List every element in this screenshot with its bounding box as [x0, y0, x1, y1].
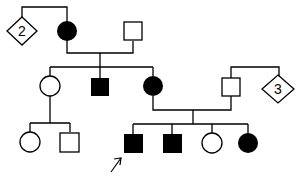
- proband-arrow-icon: [111, 158, 121, 172]
- individual-male-unaffected: [60, 133, 79, 152]
- sibship-line-g3-right: [133, 124, 248, 134]
- pedigree-diagram: 2 3: [0, 0, 300, 181]
- sibling-line-g1: [22, 7, 67, 22]
- sibship-line-g3-left: [30, 123, 70, 132]
- individual-female-unaffected: [40, 76, 60, 96]
- individual-male-unaffected: [222, 78, 240, 96]
- individual-male-unaffected: [124, 22, 142, 40]
- individual-female-affected: [57, 21, 77, 41]
- mating-line-g1: [67, 40, 133, 53]
- individual-female-affected: [143, 76, 163, 96]
- individual-male-affected: [163, 134, 182, 153]
- individual-diamond-2: 3: [262, 75, 294, 103]
- individual-diamond-1: 2: [7, 17, 37, 45]
- individual-female-unaffected: [202, 133, 222, 153]
- count-label: 3: [274, 81, 282, 97]
- count-label: 2: [18, 23, 26, 39]
- sibling-line-g2-right: [231, 67, 279, 78]
- individual-female-unaffected: [20, 132, 40, 152]
- individual-female-affected: [238, 133, 258, 153]
- individual-proband-male-affected: [124, 134, 143, 153]
- individual-male-affected: [91, 78, 109, 96]
- mating-line-g2: [153, 96, 231, 110]
- sibship-line-g2: [50, 67, 153, 78]
